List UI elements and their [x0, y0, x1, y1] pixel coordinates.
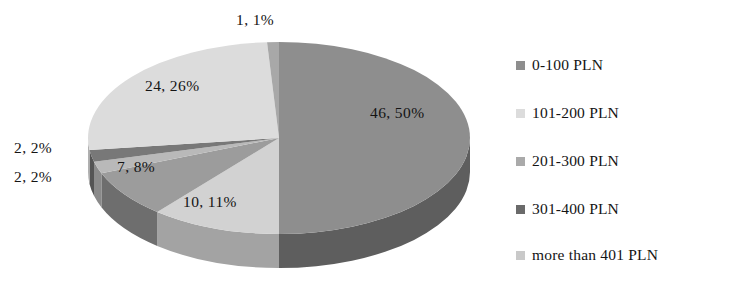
legend-item-2[interactable]: 201-300 PLN [516, 152, 619, 170]
legend-swatch-icon-4 [516, 251, 525, 260]
legend-item-4[interactable]: more than 401 PLN [516, 246, 658, 264]
legend-swatch-icon-2 [516, 157, 525, 166]
pie-slice-5[interactable] [88, 42, 279, 150]
slice-label-1-percent: 1, 1% [236, 12, 274, 28]
legend-item-3[interactable]: 301-400 PLN [516, 200, 619, 218]
legend-label-1: 101-200 PLN [532, 105, 619, 121]
pie-chart-figure: 1, 1% 46, 50% 10, 11% 7, 8% 2, 2% 2, 2% … [0, 0, 730, 286]
slice-label-50-percent: 46, 50% [370, 105, 424, 121]
pie-chart-plot-area: 1, 1% 46, 50% 10, 11% 7, 8% 2, 2% 2, 2% … [0, 0, 500, 286]
slice-label-8-percent: 7, 8% [117, 159, 155, 175]
chart-legend: 0-100 PLN101-200 PLN201-300 PLN301-400 P… [516, 44, 730, 270]
slice-label-2-percent-lower: 2, 2% [14, 169, 52, 185]
pie-chart-svg [0, 0, 500, 286]
legend-swatch-icon-0 [516, 61, 525, 70]
legend-swatch-icon-1 [516, 109, 525, 118]
legend-label-4: more than 401 PLN [532, 247, 658, 263]
legend-label-0: 0-100 PLN [532, 57, 603, 73]
legend-swatch-icon-3 [516, 205, 525, 214]
slice-label-11-percent: 10, 11% [183, 194, 237, 210]
legend-item-0[interactable]: 0-100 PLN [516, 56, 603, 74]
slice-label-26-percent: 24, 26% [145, 78, 199, 94]
legend-item-1[interactable]: 101-200 PLN [516, 104, 619, 122]
pie-slice-tops [88, 42, 470, 234]
slice-label-2-percent-upper: 2, 2% [14, 140, 52, 156]
legend-label-2: 201-300 PLN [532, 153, 619, 169]
legend-label-3: 301-400 PLN [532, 201, 619, 217]
